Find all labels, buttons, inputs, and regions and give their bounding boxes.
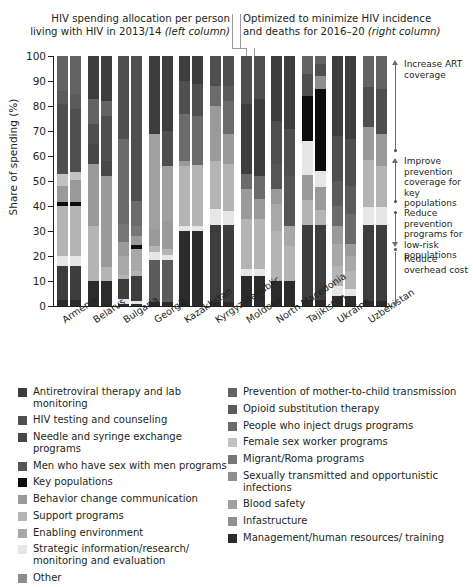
bar-north-macedonia-actual[interactable]: [271, 56, 282, 306]
bar-segment: [131, 226, 142, 236]
bar-ukraine-actual[interactable]: [332, 56, 343, 306]
bar-belarus-actual[interactable]: [88, 56, 99, 306]
legend-swatch-icon: [228, 455, 237, 464]
bar-segment: [101, 101, 112, 116]
legend-item[interactable]: People who inject drugs programs: [228, 420, 473, 432]
bar-segment: [376, 207, 387, 225]
bar-groups: [54, 56, 390, 306]
title-left-column: HIV spending allocation per person livin…: [8, 12, 230, 38]
bar-segment: [210, 161, 221, 209]
legend-item[interactable]: Needle and syringe exchange programs: [18, 431, 228, 454]
title-left-line1: HIV spending allocation per person: [51, 13, 230, 24]
bar-segment: [57, 256, 68, 266]
legend-label: Strategic information/research/ monitori…: [33, 543, 228, 566]
legend-item[interactable]: Support programs: [18, 510, 228, 522]
legend-label: Men who have sex with men programs: [33, 460, 227, 472]
bar-segment: [192, 116, 203, 165]
legend-item[interactable]: Management/human resources/ training: [228, 532, 473, 544]
bar-segment: [162, 56, 173, 131]
bar-uzbekistan-optimized[interactable]: [376, 56, 387, 306]
legend-label: Management/human resources/ training: [243, 532, 444, 544]
bar-segment: [131, 236, 142, 245]
bar-segment: [179, 56, 190, 81]
bar-ukraine-optimized[interactable]: [345, 56, 356, 306]
legend-item[interactable]: Opioid substitution therapy: [228, 403, 473, 415]
bar-kyrgyz-republic-optimized[interactable]: [223, 56, 234, 306]
bar-segment: [241, 104, 252, 174]
bar-segment: [363, 56, 374, 87]
legend-swatch-icon: [18, 545, 27, 554]
legend-item[interactable]: Infastructure: [228, 515, 473, 527]
legend-item[interactable]: Key populations: [18, 476, 228, 488]
bar-kyrgyz-republic-actual[interactable]: [210, 56, 221, 306]
bar-segment: [57, 174, 68, 187]
legend-swatch-icon: [18, 529, 27, 538]
bar-segment: [118, 242, 129, 256]
bar-armenia-optimized[interactable]: [70, 56, 81, 306]
bar-kazakhstan-actual[interactable]: [179, 56, 190, 306]
x-label-cell: Ukraine: [329, 314, 360, 374]
legend-swatch-icon: [228, 405, 237, 414]
bar-segment: [192, 231, 203, 306]
bar-segment: [223, 134, 234, 164]
bar-tajikistan-actual[interactable]: [302, 56, 313, 306]
y-tick-label-50: 50: [12, 175, 46, 187]
bar-segment: [376, 134, 387, 167]
bar-moldova-optimized[interactable]: [254, 56, 265, 306]
y-tick-label-100: 100: [12, 50, 46, 62]
leader-line-left-horizontal: [232, 48, 246, 49]
y-tick-label-70: 70: [12, 125, 46, 137]
legend-item[interactable]: Men who have sex with men programs: [18, 460, 228, 472]
x-label-cell: Tajikistan: [298, 314, 329, 374]
legend-item[interactable]: Migrant/Roma programs: [228, 453, 473, 465]
bar-segment: [302, 74, 313, 97]
bar-segment: [223, 164, 234, 212]
legend-item[interactable]: Enabling environment: [18, 527, 228, 539]
bar-bulgaria-actual[interactable]: [118, 56, 129, 306]
legend-label: Female sex worker programs: [243, 436, 388, 448]
bar-kazakhstan-optimized[interactable]: [192, 56, 203, 306]
legend-item[interactable]: Behavior change communication: [18, 493, 228, 505]
bar-segment: [70, 256, 81, 266]
bar-segment: [271, 164, 282, 189]
bar-segment: [57, 56, 68, 91]
bar-segment: [57, 91, 68, 104]
title-left-line2: living with HIV in 2013/14: [30, 26, 165, 37]
y-tick-label-40: 40: [12, 200, 46, 212]
bar-group-uzbekistan: [359, 56, 390, 306]
y-tick-label-10: 10: [12, 275, 46, 287]
bar-segment: [223, 56, 234, 86]
bar-segment: [162, 221, 173, 249]
bar-armenia-actual[interactable]: [57, 56, 68, 306]
legend-swatch-icon: [18, 433, 27, 442]
bar-segment: [241, 174, 252, 189]
chart-titles: HIV spending allocation per person livin…: [0, 12, 473, 52]
legend-item[interactable]: Antiretroviral therapy and lab monitorin…: [18, 386, 228, 409]
bar-segment: [149, 229, 160, 247]
bar-moldova-actual[interactable]: [241, 56, 252, 306]
bar-segment: [315, 64, 326, 77]
bar-segment: [376, 166, 387, 207]
x-label-cell: North Macedonia: [268, 314, 299, 374]
legend-item[interactable]: Other: [18, 572, 228, 584]
legend-swatch-icon: [228, 438, 237, 447]
bar-belarus-optimized[interactable]: [101, 56, 112, 306]
legend-item[interactable]: HIV testing and counseling: [18, 414, 228, 426]
bar-segment: [345, 289, 356, 297]
bar-segment: [376, 225, 387, 301]
ann-line-overhead: [395, 252, 396, 304]
bar-north-macedonia-optimized[interactable]: [284, 56, 295, 306]
bar-georgia-actual[interactable]: [149, 56, 160, 306]
bar-uzbekistan-actual[interactable]: [363, 56, 374, 306]
bar-georgia-optimized[interactable]: [162, 56, 173, 306]
bar-segment: [363, 127, 374, 160]
legend-item[interactable]: Blood safety: [228, 498, 473, 510]
legend-item[interactable]: Strategic information/research/ monitori…: [18, 543, 228, 566]
legend-item[interactable]: Sexually transmitted and opportunistic i…: [228, 470, 473, 493]
bar-segment: [284, 246, 295, 281]
bar-tajikistan-optimized[interactable]: [315, 56, 326, 306]
legend-item[interactable]: Prevention of mother-to-child transmissi…: [228, 386, 473, 398]
bar-bulgaria-optimized[interactable]: [131, 56, 142, 306]
x-label-cell: Belarus: [85, 314, 116, 374]
legend-item[interactable]: Female sex worker programs: [228, 436, 473, 448]
